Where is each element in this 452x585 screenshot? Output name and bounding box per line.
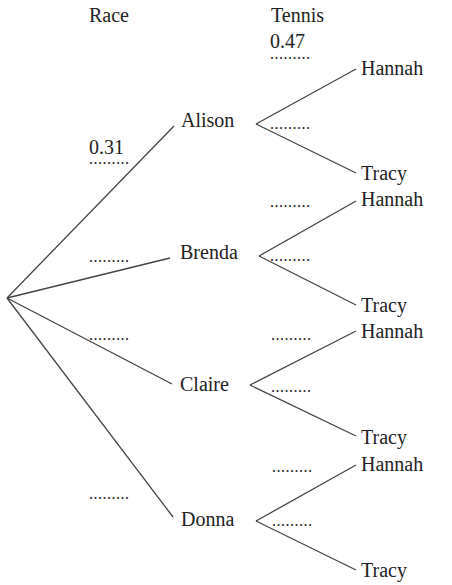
node-brenda: Brenda [180, 242, 238, 262]
leaf-alison-tracy: Tracy [361, 163, 407, 183]
race-blank-brenda[interactable]: ......... [89, 249, 130, 265]
node-alison: Alison [181, 110, 234, 130]
tennis-blank-alison-hannah[interactable]: ......... [270, 46, 311, 62]
leaf-brenda-tracy: Tracy [361, 295, 407, 315]
leaf-claire-tracy: Tracy [361, 427, 407, 447]
tennis-blank-alison-tracy[interactable]: ......... [270, 116, 311, 132]
leaf-alison-hannah: Hannah [361, 58, 423, 78]
leaf-claire-hannah: Hannah [361, 321, 423, 341]
race-blank-donna[interactable]: ......... [89, 486, 130, 502]
tennis-blank-donna-tracy[interactable]: ......... [272, 513, 313, 529]
leaf-donna-tracy: Tracy [361, 560, 407, 580]
tennis-blank-claire-tracy[interactable]: ......... [271, 379, 312, 395]
race-header: Race [89, 5, 129, 25]
leaf-brenda-hannah: Hannah [361, 189, 423, 209]
tree-lines [0, 0, 452, 585]
node-claire: Claire [180, 374, 229, 394]
tennis-blank-brenda-tracy[interactable]: ......... [270, 248, 311, 264]
race-blank-claire[interactable]: ......... [89, 327, 130, 343]
tennis-blank-brenda-hannah[interactable]: ......... [270, 194, 311, 210]
tennis-blank-donna-hannah[interactable]: ......... [272, 459, 313, 475]
node-donna: Donna [181, 509, 234, 529]
tennis-header: Tennis [271, 5, 324, 25]
tennis-blank-claire-hannah[interactable]: ......... [271, 327, 312, 343]
race-blank-alison[interactable]: ......... [89, 151, 130, 167]
leaf-donna-hannah: Hannah [361, 454, 423, 474]
